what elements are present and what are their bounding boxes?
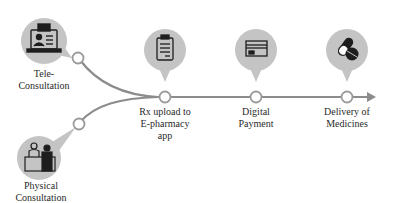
label-line: Medicines — [302, 118, 392, 130]
label-line: Tele- — [0, 68, 89, 80]
flow-diagram — [0, 0, 395, 203]
label-line: Consultation — [0, 80, 89, 92]
label-line: Consultation — [0, 192, 86, 203]
tele-consultation-label: Tele- Consultation — [0, 68, 89, 92]
delivery-label: Delivery of Medicines — [302, 106, 392, 130]
label-line: app — [120, 130, 210, 142]
payment-node — [251, 92, 262, 103]
digital-payment-label: Digital Payment — [211, 106, 301, 130]
physical-node — [74, 119, 85, 130]
label-line: Digital — [211, 106, 301, 118]
label-line: Rx upload to — [120, 106, 210, 118]
tele-node — [73, 53, 84, 64]
arrow-head-icon — [367, 92, 376, 102]
rx-node — [160, 92, 171, 103]
physical-consultation-label: Physical Consultation — [0, 180, 86, 203]
label-line: Delivery of — [302, 106, 392, 118]
label-line: Physical — [0, 180, 86, 192]
delivery-node — [342, 92, 353, 103]
label-line: E-pharmacy — [120, 118, 210, 130]
rx-upload-label: Rx upload to E-pharmacy app — [120, 106, 210, 142]
label-line: Payment — [211, 118, 301, 130]
tele-to-rx-line — [80, 60, 158, 97]
